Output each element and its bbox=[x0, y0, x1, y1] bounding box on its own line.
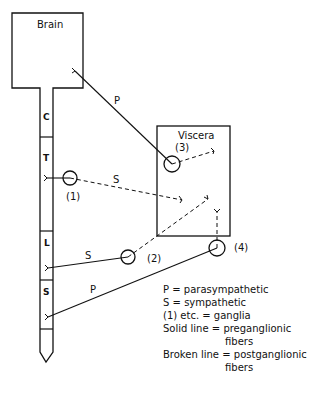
segment-t-label: T bbox=[43, 153, 50, 163]
legend-item-s: S = sympathetic bbox=[163, 296, 307, 309]
legend-value: postganglionic bbox=[234, 349, 307, 360]
brain-spinal-outline bbox=[12, 13, 83, 362]
terminal-g4-icon bbox=[214, 209, 220, 212]
viscera-label: Viscera bbox=[178, 130, 215, 141]
segment-s-label: S bbox=[43, 287, 49, 297]
legend-item-ganglia: (1) etc. = ganglia bbox=[163, 309, 307, 322]
legend-key: Broken line bbox=[163, 349, 219, 360]
terminal-s-icon bbox=[45, 314, 48, 320]
fiber-label-s-lower: S bbox=[85, 250, 91, 261]
legend-key: P bbox=[163, 284, 169, 295]
terminal-t-icon bbox=[44, 175, 47, 181]
legend-item-solid: Solid line = preganglionic bbox=[163, 322, 307, 335]
brain-label: Brain bbox=[37, 19, 63, 30]
legend-value: preganglionic bbox=[223, 323, 291, 334]
legend-eq: = bbox=[172, 284, 180, 295]
legend-eq: = bbox=[173, 297, 181, 308]
legend-eq: = bbox=[202, 310, 210, 321]
legend-item-solid-cont: fibers bbox=[163, 335, 307, 348]
legend-value: parasympathetic bbox=[184, 284, 269, 295]
legend-value-cont: fibers bbox=[225, 362, 253, 373]
legend-item-broken: Broken line = postganglionic bbox=[163, 348, 307, 361]
segment-l-label: L bbox=[44, 238, 50, 248]
ganglion-1-label: (1) bbox=[66, 191, 80, 202]
ganglion-2-label: (2) bbox=[147, 253, 161, 264]
fiber-brain-to-g3 bbox=[75, 71, 172, 164]
terminal-l-icon bbox=[45, 265, 48, 271]
legend-item-p: P = parasympathetic bbox=[163, 283, 307, 296]
legend-key: (1) etc. bbox=[163, 310, 199, 321]
legend-eq: = bbox=[212, 323, 220, 334]
legend-value: ganglia bbox=[214, 310, 251, 321]
legend-key: S bbox=[163, 297, 169, 308]
viscera-box bbox=[157, 126, 230, 236]
postfiber-g2 bbox=[128, 199, 208, 257]
legend-value: sympathetic bbox=[184, 297, 246, 308]
fiber-label-p-upper: P bbox=[114, 95, 120, 106]
legend: P = parasympathetic S = sympathetic (1) … bbox=[163, 283, 307, 374]
ganglion-3-label: (3) bbox=[175, 142, 189, 153]
terminal-brain-icon bbox=[72, 68, 75, 73]
legend-key: Solid line bbox=[163, 323, 209, 334]
postfiber-g1 bbox=[70, 178, 182, 200]
fiber-label-s-upper: S bbox=[113, 174, 119, 185]
legend-item-broken-cont: fibers bbox=[163, 361, 307, 374]
legend-eq: = bbox=[222, 349, 230, 360]
legend-value-cont: fibers bbox=[225, 336, 253, 347]
terminal-g2-icon bbox=[204, 195, 208, 199]
ganglion-4-label: (4) bbox=[234, 242, 248, 253]
fiber-label-p-lower: P bbox=[90, 284, 96, 295]
segment-c-label: C bbox=[43, 112, 50, 122]
